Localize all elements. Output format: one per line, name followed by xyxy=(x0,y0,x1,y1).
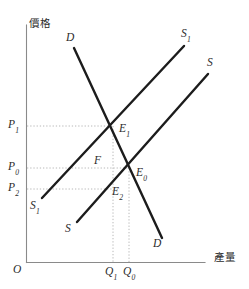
curve-label-s-top: S xyxy=(207,57,213,71)
point-label-e1-sub: 1 xyxy=(126,130,130,139)
price-tick-p1-base: P xyxy=(8,118,15,130)
y-axis-label: 價格 xyxy=(29,18,50,29)
curves-group xyxy=(42,46,208,238)
curve-label-s1-top: S1 xyxy=(181,28,191,42)
axes-group xyxy=(27,25,206,263)
price-tick-p2: P2 xyxy=(8,182,19,196)
curve-label-s-bottom: S xyxy=(65,223,71,237)
quantity-tick-q1-sub: 1 xyxy=(114,273,118,282)
point-label-e2-base: E xyxy=(112,185,119,197)
point-label-e0: E0 xyxy=(136,167,147,181)
point-label-e1: E1 xyxy=(119,123,130,137)
quantity-tick-q1: Q1 xyxy=(105,266,117,280)
quantity-tick-q1-base: Q xyxy=(105,265,113,277)
supply-demand-diagram: 價格 產量 O P1 P0 P2 Q1 Q0 E1 E0 E2 F D D S1… xyxy=(0,0,249,289)
curve-label-s-bottom-base: S xyxy=(65,222,71,234)
point-label-e2: E2 xyxy=(112,186,123,200)
point-label-f: F xyxy=(94,155,101,169)
price-tick-p0-base: P xyxy=(8,160,15,172)
point-label-e2-sub: 2 xyxy=(119,193,123,202)
curve-label-s1-top-sub: 1 xyxy=(187,35,191,44)
curve-label-d-bottom: D xyxy=(153,238,161,252)
quantity-tick-q0-base: Q xyxy=(123,265,131,277)
curve-label-s1-bottom: S1 xyxy=(30,200,40,214)
curve-label-s-top-base: S xyxy=(207,56,213,68)
quantity-tick-q0-sub: 0 xyxy=(132,273,136,282)
curve-label-d-bottom-base: D xyxy=(153,237,161,249)
curve-label-d-top-base: D xyxy=(66,31,74,43)
price-tick-p1-sub: 1 xyxy=(15,126,19,135)
point-label-e1-base: E xyxy=(119,122,126,134)
curve-label-s1-bottom-base: S xyxy=(30,199,36,211)
diagram-canvas xyxy=(0,0,249,289)
price-tick-p0-sub: 0 xyxy=(15,168,19,177)
curve-label-d-top: D xyxy=(66,32,74,46)
curve-label-s1-bottom-sub: 1 xyxy=(36,207,40,216)
point-label-e0-sub: 0 xyxy=(143,174,147,183)
quantity-tick-q0: Q0 xyxy=(123,266,135,280)
price-tick-p1: P1 xyxy=(8,119,19,133)
curve-label-s1-top-base: S xyxy=(181,27,187,39)
price-tick-p0: P0 xyxy=(8,161,19,175)
price-tick-p2-base: P xyxy=(8,181,15,193)
point-label-f-base: F xyxy=(94,154,101,166)
price-tick-p2-sub: 2 xyxy=(15,189,19,198)
x-axis-label: 產量 xyxy=(214,252,235,263)
point-label-e0-base: E xyxy=(136,166,143,178)
origin-label: O xyxy=(13,264,21,276)
